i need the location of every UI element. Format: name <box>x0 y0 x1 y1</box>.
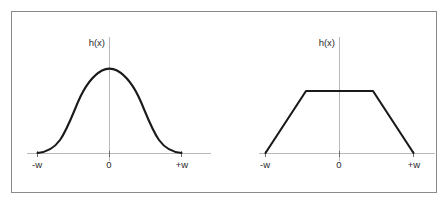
panel-trapezoidal-weighting-function: h(x) -w 0 +w <box>225 12 438 194</box>
y-axis-label: h(x) <box>89 38 105 48</box>
x-tick-label-minus-w: -w <box>260 160 270 170</box>
panel-gaussian-weighting-function: h(x) -w 0 +w <box>12 12 225 194</box>
x-tick-label-minus-w: -w <box>32 160 42 170</box>
figure-border: h(x) -w 0 +w h(x) -w 0 +w <box>11 11 437 193</box>
x-tick-label-plus-w: +w <box>408 160 420 170</box>
y-axis-label: h(x) <box>319 38 335 48</box>
x-tick-label-zero: 0 <box>106 160 111 170</box>
x-tick-label-plus-w: +w <box>176 160 188 170</box>
x-tick-label-zero: 0 <box>336 160 341 170</box>
figure-container: h(x) -w 0 +w h(x) -w 0 +w <box>0 0 448 206</box>
gaussian-plot-svg <box>12 12 225 194</box>
